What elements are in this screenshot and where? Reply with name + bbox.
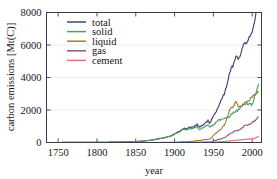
- x-tick-label: 1800: [86, 147, 107, 158]
- x-tick-label: 1900: [164, 147, 185, 158]
- y-tick-label: 4000: [21, 72, 42, 83]
- y-tick-label: 2000: [21, 105, 42, 116]
- gridlines-group: [47, 45, 262, 110]
- chart-canvas: 02000400060008000 1750180018501900195020…: [0, 0, 277, 179]
- x-tick-label: 1850: [125, 147, 146, 158]
- carbon-emissions-chart-figure: 02000400060008000 1750180018501900195020…: [0, 0, 277, 179]
- x-axis-tick-labels: 175018001850190019502000: [48, 147, 263, 158]
- x-tick-label: 1950: [203, 147, 224, 158]
- x-tick-label: 1750: [48, 147, 69, 158]
- y-tick-label: 6000: [21, 40, 42, 51]
- y-tick-label: 8000: [21, 7, 42, 18]
- series-line-total: [59, 0, 258, 142]
- legend: totalsolidliquidgascement: [67, 17, 122, 66]
- x-tick-label: 2000: [242, 147, 263, 158]
- series-group: [59, 0, 258, 142]
- series-line-cement: [59, 136, 258, 142]
- legend-label-cement: cement: [92, 55, 122, 66]
- y-axis-title: carbon emissions [Mt(C)]: [5, 23, 17, 131]
- x-axis-title: year: [145, 165, 164, 176]
- y-axis-tick-labels: 02000400060008000: [21, 7, 42, 148]
- y-tick-label: 0: [36, 137, 41, 148]
